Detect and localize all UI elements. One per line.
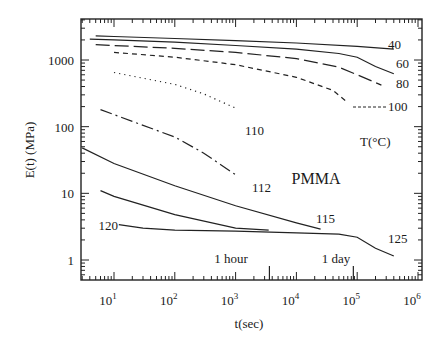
x-tick-label: 101 [99, 291, 117, 308]
x-tick-label: 105 [342, 291, 360, 308]
curve-80C [96, 45, 382, 86]
legend-title: T(°C) [360, 134, 390, 149]
x-tick-label: 106 [403, 291, 421, 308]
x-tick-label: 104 [282, 291, 300, 308]
y-tick-label: 100 [55, 120, 75, 135]
curve-100C [114, 52, 348, 102]
y-tick-label: 1 [68, 253, 75, 268]
curve-110C [114, 73, 236, 109]
y-axis-label: E(t) (MPa) [22, 122, 37, 179]
curve-label-60: 60 [396, 56, 409, 71]
curve-label-40: 40 [388, 37, 401, 52]
x-tick-label: 103 [221, 291, 239, 308]
curve-label-80: 80 [396, 76, 409, 91]
x-axis-label: t(sec) [235, 316, 264, 331]
curve-label-110: 110 [245, 123, 264, 138]
plot-border [81, 19, 422, 280]
curve-112C [101, 110, 236, 175]
time-marker-label: 1 hour [214, 251, 248, 266]
relaxation-modulus-chart: 1011021031041051061101001000 E(t) (MPa) … [0, 0, 447, 349]
material-label: PMMA [292, 170, 341, 187]
y-tick-label: 10 [61, 186, 74, 201]
curve-label-115: 115 [316, 211, 335, 226]
curve-label-112: 112 [252, 180, 271, 195]
curve-label-100: 100 [388, 99, 408, 114]
y-tick-label: 1000 [48, 53, 74, 68]
curve-115C [82, 148, 320, 229]
curve-label-125: 125 [388, 231, 408, 246]
x-tick-label: 102 [160, 291, 178, 308]
curve-120C [101, 191, 269, 231]
labels: E(t) (MPa) t(sec) PMMA T(°C) 40608010011… [22, 37, 409, 331]
curve-label-120: 120 [99, 218, 119, 233]
curves [82, 36, 394, 256]
curve-60C [90, 39, 394, 74]
time-marker-label: 1 day [322, 251, 351, 266]
